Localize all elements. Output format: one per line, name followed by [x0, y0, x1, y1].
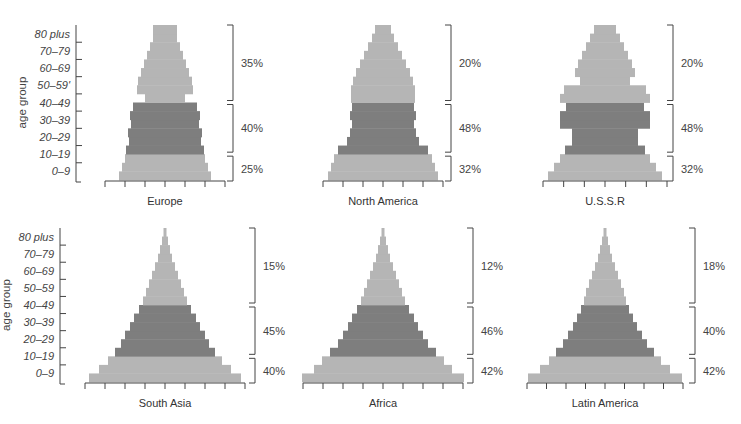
age-label: 0–9: [36, 367, 54, 379]
pyramid-bar: [566, 103, 644, 112]
pyramid-bar: [582, 51, 628, 60]
pyramid-bar: [554, 163, 656, 172]
pyramid-bar: [584, 296, 626, 305]
pyramid-bar: [578, 59, 632, 68]
pyramid-bar: [380, 237, 386, 246]
age-label: 30–39: [39, 114, 70, 126]
population-pyramids-figure: 0–910–1920–2930–3940–4950–59'60–6970–798…: [0, 0, 741, 424]
pyramid-bar: [581, 305, 629, 314]
age-label: 20–29: [38, 131, 70, 143]
group-percentage: 42%: [703, 365, 725, 377]
group-percentage: 48%: [681, 122, 703, 134]
group-percentage: 42%: [481, 365, 503, 377]
pyramid-bar: [314, 365, 452, 374]
pyramid-bar: [602, 237, 608, 246]
pyramid-title: U.S.S.R: [585, 195, 625, 207]
pyramid-bar: [575, 68, 635, 77]
pyramid-bar: [155, 262, 175, 271]
pyramid-bar: [352, 103, 414, 112]
pyramid-bar: [563, 339, 647, 348]
pyramid-bar: [138, 77, 192, 86]
group-percentage: 46%: [481, 325, 503, 337]
pyramid-bar: [595, 262, 615, 271]
group-bracket: [249, 228, 255, 303]
group-bracket: [227, 105, 233, 153]
pyramid-bar: [590, 34, 620, 43]
pyramid-bar: [334, 154, 432, 163]
pyramid-bar: [367, 279, 399, 288]
age-label: 50–59: [23, 282, 54, 294]
age-label: 70–79: [23, 248, 54, 260]
pyramid-title: South Asia: [139, 397, 192, 409]
pyramid-bar: [121, 339, 209, 348]
group-percentage: 32%: [681, 163, 703, 175]
pyramid-bar: [549, 356, 661, 365]
pyramid-bar: [572, 128, 638, 137]
group-bracket: [667, 105, 673, 153]
age-label: 10–19: [39, 148, 70, 160]
pyramid-bar: [586, 288, 624, 297]
pyramid-bar: [146, 288, 184, 297]
pyramid-bar: [137, 85, 193, 94]
pyramid-bar: [99, 365, 231, 374]
group-percentage: 32%: [459, 163, 481, 175]
pyramid-title: North America: [348, 195, 419, 207]
pyramid-bar: [115, 348, 215, 357]
pyramid-bar: [580, 77, 630, 86]
pyramid-bar: [131, 120, 199, 129]
pyramid-bar: [376, 254, 390, 263]
pyramid-bar: [350, 111, 416, 120]
pyramid-bar: [152, 271, 178, 280]
age-label: 50–59': [37, 79, 71, 91]
pyramid-bar: [347, 137, 419, 146]
pyramid-bar: [147, 51, 183, 60]
pyramid-bar: [577, 314, 633, 323]
pyramid-title: Africa: [369, 397, 398, 409]
pyramid-bar: [373, 262, 393, 271]
pyramid-bar: [372, 34, 394, 43]
group-percentage: 40%: [241, 122, 263, 134]
pyramid-bar: [604, 228, 607, 237]
age-label: 10–19: [23, 350, 54, 362]
pyramid-bar: [144, 59, 186, 68]
group-percentage: 20%: [681, 57, 703, 69]
pyramid-bar: [162, 237, 168, 246]
group-bracket: [445, 25, 451, 101]
pyramid-bar: [568, 331, 642, 340]
group-bracket: [467, 307, 473, 354]
pyramid-bar: [153, 34, 177, 43]
pyramid-bar: [360, 59, 406, 68]
pyramid-bar: [370, 271, 396, 280]
pyramid-bar: [565, 146, 645, 155]
group-bracket: [689, 228, 695, 303]
pyramid-bar: [141, 68, 189, 77]
pyramid-bar: [540, 365, 670, 374]
pyramid-bar: [600, 245, 610, 254]
pyramid-bar: [368, 42, 398, 51]
pyramid-bar: [351, 85, 415, 94]
pyramid-bar: [356, 68, 410, 77]
pyramid-bar: [130, 111, 200, 120]
group-bracket: [689, 358, 695, 383]
pyramid-bar: [364, 51, 402, 60]
pyramid-bar: [302, 373, 464, 382]
age-label: 40–49: [23, 299, 54, 311]
y-axis: [60, 228, 65, 384]
pyramid-bar: [128, 128, 202, 137]
group-bracket: [667, 156, 673, 181]
pyramid-bar: [560, 111, 650, 120]
pyramid-bar: [331, 163, 435, 172]
pyramid-bar: [164, 228, 167, 237]
group-bracket: [445, 105, 451, 153]
group-percentage: 12%: [481, 260, 503, 272]
pyramid-bar: [357, 305, 409, 314]
group-percentage: 35%: [241, 57, 263, 69]
pyramid-bar: [598, 254, 612, 263]
age-label: 30–39: [23, 316, 54, 328]
group-bracket: [227, 156, 233, 181]
pyramid-title: Latin America: [572, 397, 640, 409]
group-percentage: 25%: [241, 163, 263, 175]
pyramid-bar: [134, 314, 196, 323]
pyramid-bar: [560, 154, 650, 163]
pyramid-bar: [343, 331, 423, 340]
